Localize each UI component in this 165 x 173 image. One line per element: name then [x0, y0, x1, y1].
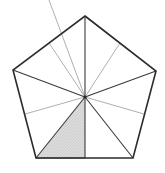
- center-point: [83, 95, 86, 98]
- pentagon-diagram: Regular pentagon partitioned into ten tr…: [0, 0, 165, 173]
- pentagon-figure-container: Regular pentagon partitioned into ten tr…: [0, 0, 165, 173]
